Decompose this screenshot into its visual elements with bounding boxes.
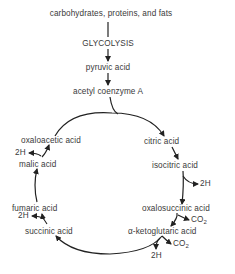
arrow-oxalosuccinic-to-ketoglutaric [171,213,177,226]
label-pyruvic-acid: pyruvic acid [86,64,130,72]
label-source: carbohydrates, proteins, and fats [50,10,173,18]
arrow-succinic-to-fumaric [42,214,47,224]
label-co2-oxalosuccinic: CO2 [191,216,207,225]
arrow-oxaloacetic-to-citric [55,113,164,136]
co2-subscript: 2 [185,243,188,249]
label-co2-ketoglutaric: CO2 [173,240,189,249]
label-glycolysis: GLYCOLYSIS [82,40,134,48]
label-citric-acid: citric acid [144,138,179,146]
label-ketoglutaric-acid: α-ketoglutaric acid [128,228,197,236]
arrow-co2-ketoglutaric [162,236,171,244]
label-succinic-acid: succinic acid [25,228,73,236]
arrow-fumaric-to-malic [35,169,37,202]
arrow-co2-oxalosuccinic [178,215,189,220]
co2-text: CO [191,215,203,224]
arrow-2h-malic [29,153,41,156]
label-2h-ketoglutaric: 2H [151,252,162,260]
label-isocitric-acid: isocitric acid [152,162,198,170]
label-malic-acid: malic acid [19,161,56,169]
arrow-2h-isocitric [183,176,198,184]
arrow-citric-to-isocitric [172,147,178,159]
label-oxaloacetic-acid: oxaloacetic acid [21,137,81,145]
label-2h-succinic: 2H [18,212,29,220]
arrow-acetyl-into-cycle [110,97,118,114]
label-2h-malic: 2H [15,149,26,157]
co2-text: CO [173,239,185,248]
label-acetyl-coa: acetyl coenzyme A [73,88,143,96]
co2-subscript: 2 [203,219,206,225]
arrow-ketoglutaric-to-succinic [56,236,162,254]
arrow-malic-to-oxaloacetic [42,145,49,157]
label-oxalosuccinic-acid: oxalosuccinic acid [142,205,210,213]
label-2h-isocitric: 2H [200,180,211,188]
